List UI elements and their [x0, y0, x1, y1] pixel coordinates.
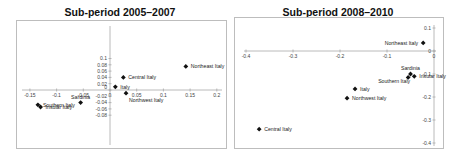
x-tick-label: -0.1	[383, 53, 392, 59]
diamond-marker	[408, 72, 413, 77]
y-tick-label: 0	[428, 48, 431, 54]
x-tick-label: -0.3	[289, 53, 298, 59]
diamond-marker	[421, 41, 426, 46]
x-tick-label: -0.4	[242, 53, 251, 59]
y-tick-label: -0.3	[422, 117, 431, 123]
scatter-plot: -0.4-0.3-0.2-0.100.10-0.1-0.2-0.3-0.4Nor…	[0, 0, 453, 156]
y-tick-label: 0.1	[424, 25, 431, 31]
diamond-marker	[353, 87, 358, 92]
point-label: Sardinia	[401, 65, 420, 71]
diamond-marker	[412, 74, 417, 79]
point-label: Southern Italy	[378, 78, 410, 84]
x-tick-label: -0.2	[336, 53, 345, 59]
x-tick-label: 0	[433, 53, 436, 59]
diamond-marker	[257, 127, 262, 132]
point-label: Insular Italy	[419, 73, 446, 79]
y-tick-label: -0.2	[422, 94, 431, 100]
point-label: Italy	[360, 86, 370, 92]
point-label: Northwest Italy	[352, 95, 387, 101]
y-tick-label: -0.4	[422, 140, 431, 146]
point-label: Central Italy	[264, 126, 292, 132]
diamond-marker	[345, 96, 350, 101]
point-label: Northeast Italy	[385, 40, 419, 46]
